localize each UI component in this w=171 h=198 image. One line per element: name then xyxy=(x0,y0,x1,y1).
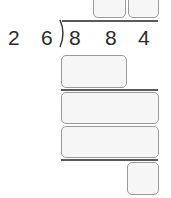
final-remainder-input[interactable] xyxy=(127,162,159,195)
divisor-digit-2: 6 xyxy=(41,27,53,48)
division-vinculum xyxy=(62,20,158,22)
dividend-digit-2: 8 xyxy=(105,27,117,48)
quotient-digit-2-input[interactable] xyxy=(128,0,159,18)
divisor-digit-1: 2 xyxy=(8,27,20,48)
quotient-digit-1-input[interactable] xyxy=(93,0,126,18)
step1-remainder-input[interactable] xyxy=(61,92,159,124)
division-bracket xyxy=(57,19,67,49)
dividend-digit-3: 4 xyxy=(138,27,150,48)
subtraction-line-1 xyxy=(61,89,158,91)
step2-product-input[interactable] xyxy=(61,126,159,158)
subtraction-line-2 xyxy=(61,159,158,161)
step1-product-input[interactable] xyxy=(61,55,127,88)
dividend-digit-1: 8 xyxy=(69,27,81,48)
